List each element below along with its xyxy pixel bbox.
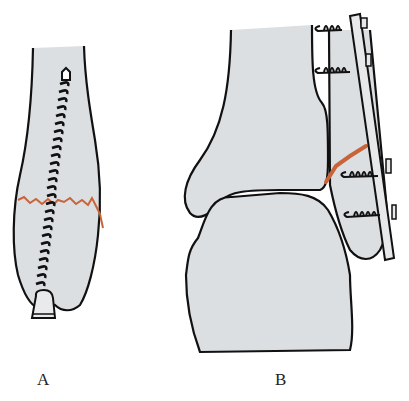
panel-label-b: B [275, 370, 286, 390]
tibia-bone [185, 25, 328, 217]
panel-label-a: A [37, 370, 49, 390]
screw-icon [315, 68, 350, 73]
panel-a-illustration [14, 46, 103, 318]
medial-malleolus-bone [14, 46, 100, 310]
panel-b-illustration [185, 14, 396, 352]
talus-bone [186, 193, 352, 352]
screw-icon [315, 26, 342, 31]
figure-canvas [0, 0, 409, 401]
